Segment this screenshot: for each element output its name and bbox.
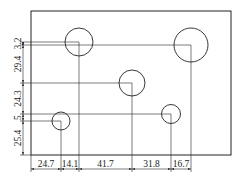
- dimension-label: 31.8: [143, 159, 160, 169]
- dimension-label: 3.2: [13, 37, 23, 49]
- dimension-label: 41.7: [97, 159, 114, 169]
- extension-lines: [20, 42, 191, 172]
- dimension-label: 24.7: [38, 159, 55, 169]
- dimension-label: 29.4: [13, 55, 23, 72]
- dimension-label: 24.3: [13, 90, 23, 107]
- dimension-label: 14.1: [62, 159, 79, 169]
- horizontal-dimensions: 24.714.141.731.816.7: [31, 159, 191, 170]
- plate-drawing: 24.714.141.731.816.7 3.229.424.3525.4: [0, 0, 243, 186]
- dimension-label: 25.4: [13, 129, 23, 146]
- vertical-dimensions: 3.229.424.3525.4: [13, 37, 24, 155]
- dimension-label: 16.7: [173, 159, 190, 169]
- dimension-label: 5: [13, 115, 23, 120]
- holes-group: [52, 28, 208, 130]
